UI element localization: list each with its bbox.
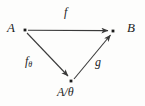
edge-label-g: g (95, 56, 101, 68)
node-dot-a-quotient (70, 80, 73, 83)
node-dot-b (112, 30, 115, 33)
edge-label-f-theta: fθ (25, 55, 32, 69)
node-dot-a (24, 29, 27, 32)
node-label-a-quotient: A/θ (57, 86, 74, 98)
commutative-diagram: A B A/θ f fθ g (0, 0, 145, 106)
edge-label-f: f (64, 6, 67, 18)
node-label-a: A (7, 21, 15, 34)
edge-arrow-g (74, 35, 111, 79)
edge-arrow-f-theta (27, 33, 68, 76)
node-label-b: B (127, 21, 135, 34)
edge-label-f-theta-subscript: θ (28, 60, 32, 69)
